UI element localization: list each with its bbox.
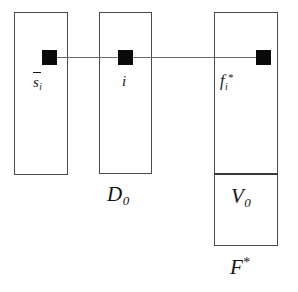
label-f-star-base: F <box>230 255 243 279</box>
label-s-bar-i-base: s <box>33 74 39 90</box>
filled-square-icon-i <box>118 50 133 65</box>
filled-square-icon-s <box>42 50 57 65</box>
label-f-i-star-base: f <box>220 72 224 89</box>
label-f-star: F* <box>230 256 250 278</box>
connector-i-to-f <box>125 57 265 58</box>
label-s-bar-i-overbar-group: si <box>33 74 42 92</box>
filled-square-icon-f <box>256 50 271 65</box>
label-f-i-star: fi* <box>220 73 234 92</box>
label-d-0-base: D <box>107 182 122 206</box>
label-s-bar-i: si <box>33 74 42 92</box>
s-bar-i-column-box <box>14 12 68 175</box>
label-s-bar-i-subscript: i <box>39 82 42 92</box>
f-star-column-box <box>214 12 278 246</box>
label-f-star-superscript: * <box>243 255 250 270</box>
label-d-0: D0 <box>107 184 129 207</box>
label-v-0-subscript: 0 <box>244 195 251 210</box>
label-i-base: i <box>122 73 126 89</box>
connector-s-to-i <box>55 57 127 58</box>
label-f-i-star-superscript: * <box>228 72 233 83</box>
label-v-0: V0 <box>231 186 251 209</box>
diagram-canvas: si i fi* D0 V0 F* <box>0 0 298 292</box>
d0-column-box <box>99 12 152 174</box>
label-i: i <box>122 74 126 89</box>
label-d-0-subscript: 0 <box>123 193 130 208</box>
label-v-0-base: V <box>231 184 244 208</box>
f-star-v0-divider <box>214 173 278 175</box>
